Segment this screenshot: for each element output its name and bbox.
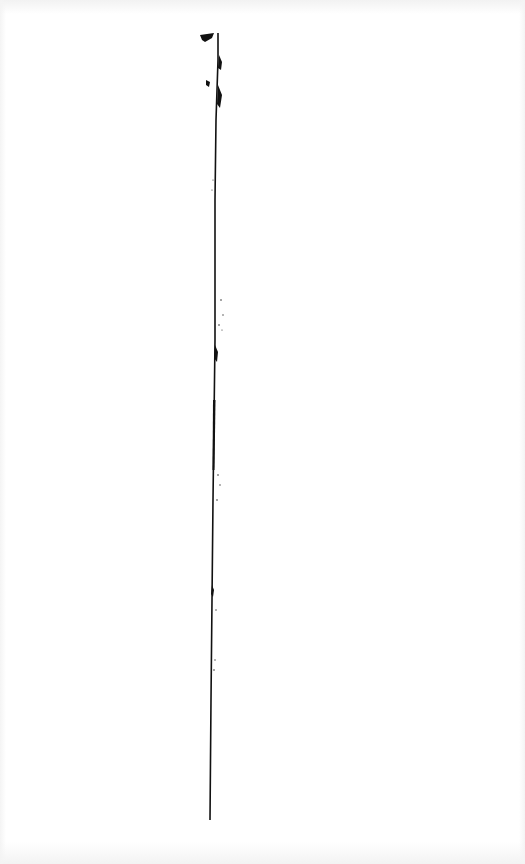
ink-marks [0,0,525,864]
scanned-page [0,0,525,864]
ink-blot-top [200,33,214,42]
ink-blot-small [206,80,210,87]
ink-thick-segment [213,400,216,470]
